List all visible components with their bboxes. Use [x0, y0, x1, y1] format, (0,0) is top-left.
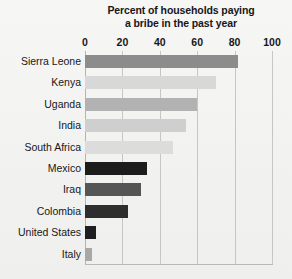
- category-label-colombia: Colombia: [37, 201, 81, 222]
- bar-row: [85, 51, 272, 72]
- x-tick-label-100: 100: [263, 36, 281, 48]
- x-tick-label-40: 40: [154, 36, 166, 48]
- bar-row: [85, 158, 272, 179]
- category-label-sierra-leone: Sierra Leone: [21, 51, 81, 72]
- chart-title-line-2: a bribe in the past year: [78, 17, 284, 30]
- x-tick-label-20: 20: [117, 36, 129, 48]
- x-tick-label-80: 80: [229, 36, 241, 48]
- bar-united-states: [85, 226, 96, 239]
- bar-colombia: [85, 205, 128, 218]
- bar-india: [85, 119, 186, 132]
- category-label-uganda: Uganda: [44, 94, 81, 115]
- bar-kenya: [85, 76, 216, 89]
- chart-title: Percent of households paying a bribe in …: [78, 4, 284, 29]
- bar-italy: [85, 248, 92, 261]
- bar-row: [85, 94, 272, 115]
- bar-row: [85, 244, 272, 265]
- x-axis-tick-labels: 020406080100: [0, 36, 292, 50]
- category-label-india: India: [58, 115, 81, 136]
- bar-chart: Percent of households paying a bribe in …: [0, 0, 292, 279]
- bar-sierra-leone: [85, 55, 238, 68]
- bar-iraq: [85, 183, 141, 196]
- bar-row: [85, 201, 272, 222]
- bar-row: [85, 222, 272, 243]
- x-tick-label-60: 60: [191, 36, 203, 48]
- category-label-italy: Italy: [62, 244, 81, 265]
- bar-row: [85, 179, 272, 200]
- bar-row: [85, 115, 272, 136]
- plot-area: [85, 51, 272, 265]
- category-label-south-africa: South Africa: [24, 137, 81, 158]
- x-axis-line: [85, 264, 273, 265]
- bar-row: [85, 137, 272, 158]
- category-label-united-states: United States: [18, 222, 81, 243]
- bar-south-africa: [85, 141, 173, 154]
- x-tick-label-0: 0: [82, 36, 88, 48]
- bar-uganda: [85, 98, 197, 111]
- y-axis-category-labels: Sierra LeoneKenyaUgandaIndiaSouth Africa…: [0, 51, 81, 265]
- category-label-kenya: Kenya: [51, 72, 81, 93]
- gridline-100: [272, 51, 273, 265]
- bar-mexico: [85, 162, 147, 175]
- chart-title-line-1: Percent of households paying: [78, 4, 284, 17]
- bar-row: [85, 72, 272, 93]
- category-label-mexico: Mexico: [48, 158, 81, 179]
- category-label-iraq: Iraq: [63, 179, 81, 200]
